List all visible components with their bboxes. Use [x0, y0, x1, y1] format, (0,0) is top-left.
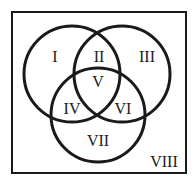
region-label-viii: VIII — [150, 153, 178, 170]
region-label-i: I — [52, 48, 57, 65]
region-label-iii: III — [139, 48, 155, 65]
venn-diagram: I II III IV V VI VII VIII — [0, 0, 196, 185]
region-label-iv: IV — [64, 100, 81, 117]
region-label-vii: VII — [87, 132, 109, 149]
region-label-v: V — [92, 73, 104, 90]
region-label-ii: II — [94, 48, 105, 65]
region-label-vi: VI — [115, 100, 132, 117]
